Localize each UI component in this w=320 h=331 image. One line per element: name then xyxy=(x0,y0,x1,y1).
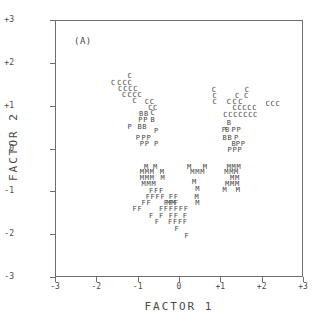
data-point-c: C xyxy=(248,112,252,119)
data-point-c: C xyxy=(132,97,136,104)
x-tick-mark xyxy=(262,277,263,282)
data-point-c: C xyxy=(233,112,237,119)
data-point-f: F xyxy=(156,194,160,201)
data-point-f: F xyxy=(137,206,141,213)
data-points-layer: CCCCCCCCCCCCCCCCCCCCCCCCCCCCCCCCCCCCCCCC… xyxy=(56,21,302,276)
data-point-b: B xyxy=(137,124,141,131)
data-point-f: F xyxy=(149,213,153,220)
x-axis-title: FACTOR 1 xyxy=(55,300,303,313)
x-tick-label: +2 xyxy=(249,283,275,291)
data-point-m: M xyxy=(195,200,199,207)
x-tick-mark xyxy=(138,277,139,282)
data-point-m: M xyxy=(142,180,146,187)
data-point-m: M xyxy=(161,174,165,181)
data-point-m: M xyxy=(203,163,207,170)
data-point-p: P xyxy=(232,147,236,154)
data-point-c: C xyxy=(238,112,242,119)
y-tick-label: -3 xyxy=(0,273,14,281)
data-point-p: P xyxy=(154,127,158,134)
data-point-f: F xyxy=(185,233,189,240)
x-tick-label: +3 xyxy=(290,283,316,291)
data-point-c: C xyxy=(253,112,257,119)
data-point-m: M xyxy=(224,168,228,175)
x-tick-mark xyxy=(303,277,304,282)
y-tick-label: +2 xyxy=(0,59,14,67)
data-point-c: C xyxy=(244,93,248,100)
data-point-c: C xyxy=(111,80,115,87)
data-point-m: M xyxy=(187,163,191,170)
data-point-f: F xyxy=(183,219,187,226)
data-point-c: C xyxy=(275,101,279,108)
data-point-m: M xyxy=(230,180,234,187)
data-point-p: P xyxy=(154,141,158,148)
y-tick-label: 0 xyxy=(0,145,14,153)
data-point-f: F xyxy=(168,219,172,226)
y-tick-label: -1 xyxy=(0,187,14,195)
data-point-c: C xyxy=(122,91,126,98)
data-point-f: F xyxy=(146,200,150,207)
x-tick-mark xyxy=(55,277,56,282)
data-point-m: M xyxy=(236,186,240,193)
data-point-p: P xyxy=(127,124,131,131)
data-point-p: P xyxy=(145,141,149,148)
x-tick-mark xyxy=(179,277,180,282)
x-tick-label: +1 xyxy=(207,283,233,291)
panel-label: (A) xyxy=(74,36,92,46)
data-point-c: C xyxy=(227,99,231,106)
data-point-f: F xyxy=(132,206,136,213)
data-point-m: M xyxy=(223,186,227,193)
data-point-c: C xyxy=(213,99,217,106)
data-point-b: B xyxy=(223,134,227,141)
data-point-f: F xyxy=(164,206,168,213)
data-point-c: C xyxy=(127,91,131,98)
scatter-plot-figure: FACTOR 2 +3+2+10-1-2-3 CCCCCCCCCCCCCCCCC… xyxy=(0,0,320,331)
data-point-p: P xyxy=(227,147,231,154)
data-point-c: C xyxy=(266,101,270,108)
x-tick-label: -3 xyxy=(42,283,68,291)
data-point-f: F xyxy=(151,194,155,201)
data-point-b: B xyxy=(151,116,155,123)
x-tick-mark xyxy=(96,277,97,282)
y-tick-label: +3 xyxy=(0,16,14,24)
data-point-m: M xyxy=(195,168,199,175)
data-point-f: F xyxy=(175,226,179,233)
data-point-p: P xyxy=(143,116,147,123)
data-point-c: C xyxy=(137,91,141,98)
data-point-p: P xyxy=(140,141,144,148)
x-tick-label: -2 xyxy=(83,283,109,291)
y-tick-label: -2 xyxy=(0,230,14,238)
x-tick-label: -1 xyxy=(125,283,151,291)
x-tick-mark xyxy=(220,277,221,282)
data-point-p: P xyxy=(138,116,142,123)
data-point-p: P xyxy=(237,147,241,154)
data-point-c: C xyxy=(243,112,247,119)
data-point-f: F xyxy=(155,219,159,226)
data-point-f: F xyxy=(159,213,163,220)
data-point-f: F xyxy=(142,200,146,207)
data-point-p: P xyxy=(222,126,226,133)
data-point-c: C xyxy=(270,101,274,108)
data-point-b: B xyxy=(142,124,146,131)
x-tick-label: 0 xyxy=(166,283,192,291)
plot-area: CCCCCCCCCCCCCCCCCCCCCCCCCCCCCCCCCCCCCCCC… xyxy=(55,20,303,277)
y-tick-label: +1 xyxy=(0,102,14,110)
